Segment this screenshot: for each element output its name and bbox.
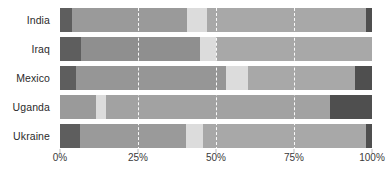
- bar-iraq: [60, 37, 372, 61]
- bar-segment: [80, 124, 186, 148]
- bar-segment: [226, 66, 248, 90]
- bar-segment: [186, 124, 203, 148]
- bar-segment: [200, 37, 216, 61]
- bar-segment: [96, 95, 106, 119]
- bar-segment: [366, 124, 372, 148]
- plot-area: [60, 8, 372, 150]
- stacked-bar-chart: India Iraq Mexico Uganda Ukraine 0%25%50…: [0, 0, 389, 180]
- bar-segment: [72, 8, 187, 32]
- x-tick-label: 0%: [53, 152, 67, 163]
- bar-india: [60, 8, 372, 32]
- category-label-iraq: Iraq: [0, 37, 56, 61]
- bar-stack: [60, 95, 372, 119]
- bar-segment: [203, 124, 366, 148]
- bar-mexico: [60, 66, 372, 90]
- bar-segment: [216, 37, 372, 61]
- bar-segment: [60, 124, 80, 148]
- x-tick-label: 25%: [128, 152, 148, 163]
- bar-segment: [60, 95, 96, 119]
- x-tick-label: 75%: [284, 152, 304, 163]
- category-label-uganda: Uganda: [0, 95, 56, 119]
- category-label-ukraine: Ukraine: [0, 124, 56, 148]
- bar-segment: [60, 37, 81, 61]
- bar-segment: [366, 8, 372, 32]
- x-tick-label: 50%: [206, 152, 226, 163]
- bar-segment: [60, 66, 76, 90]
- bar-stack: [60, 8, 372, 32]
- bar-segment: [207, 8, 366, 32]
- bar-segment: [60, 8, 72, 32]
- category-axis-labels: India Iraq Mexico Uganda Ukraine: [0, 8, 56, 150]
- bar-stack: [60, 66, 372, 90]
- bar-stack: [60, 37, 372, 61]
- category-label-mexico: Mexico: [0, 66, 56, 90]
- bar-segment: [76, 66, 226, 90]
- x-axis: 0%25%50%75%100%: [60, 152, 372, 172]
- bar-ukraine: [60, 124, 372, 148]
- bar-segment: [106, 95, 330, 119]
- bar-segment: [330, 95, 372, 119]
- bar-stack: [60, 124, 372, 148]
- bar-segment: [355, 66, 372, 90]
- bar-segment: [248, 66, 355, 90]
- category-label-india: India: [0, 8, 56, 32]
- bar-segment: [187, 8, 207, 32]
- bar-segment: [81, 37, 200, 61]
- bar-uganda: [60, 95, 372, 119]
- x-tick-label: 100%: [359, 152, 385, 163]
